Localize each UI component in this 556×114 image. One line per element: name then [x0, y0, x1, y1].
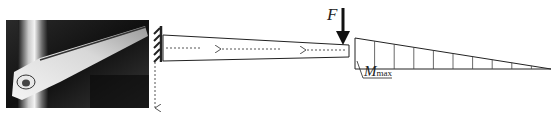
cantilever-diagram: F Mmax — [0, 0, 556, 114]
beam — [163, 35, 349, 61]
load-force: F — [326, 5, 350, 45]
photo-bolt-hole — [22, 80, 30, 87]
mmax-label-sub: max — [377, 68, 393, 78]
photo — [6, 20, 149, 108]
mmax-label: Mmax — [363, 63, 392, 79]
moment-diagram: Mmax — [355, 38, 551, 79]
fixed-support — [154, 26, 161, 108]
support-hatching — [154, 28, 160, 62]
force-arrowhead — [336, 31, 350, 45]
photo-floor-shadow — [90, 75, 149, 108]
force-label: F — [326, 5, 338, 24]
